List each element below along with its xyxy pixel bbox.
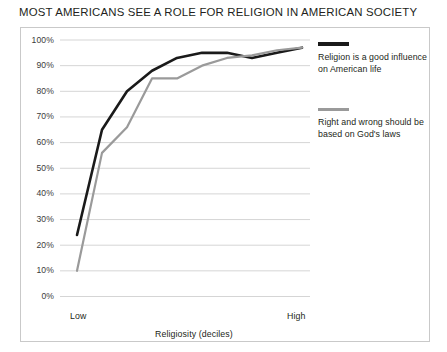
y-axis-tick-label: 0%: [18, 291, 54, 301]
series-line: [77, 48, 302, 235]
y-axis-tick-label: 90%: [18, 60, 54, 70]
legend-entry-religion-good-influence: Religion is a good influence on American…: [318, 42, 434, 75]
y-axis-tick-label: 20%: [18, 240, 54, 250]
gridlines: [60, 40, 310, 297]
y-axis-tick-label: 100%: [18, 35, 54, 45]
y-axis-tick-label: 40%: [18, 188, 54, 198]
legend-entry-right-and-wrong-gods-laws: Right and wrong should be based on God's…: [318, 108, 434, 140]
legend-label-series-b: Right and wrong should be based on God's…: [318, 117, 434, 140]
legend-label-series-a: Religion is a good influence on American…: [318, 52, 434, 75]
y-axis-tick-label: 70%: [18, 111, 54, 121]
y-axis-tick-label: 60%: [18, 137, 54, 147]
series-lines: [77, 48, 302, 271]
legend-swatch-series-a: [318, 42, 349, 46]
x-axis-low-label: Low: [70, 311, 86, 321]
y-axis-tick-label: 30%: [18, 214, 54, 224]
x-axis-title: Religiosity (deciles): [155, 329, 233, 339]
y-axis-tick-label: 50%: [18, 163, 54, 173]
legend-swatch-series-b: [318, 108, 349, 111]
y-axis-tick-label: 10%: [18, 265, 54, 275]
y-axis-tick-label: 80%: [18, 86, 54, 96]
series-line: [77, 48, 302, 271]
x-axis-high-label: High: [287, 311, 306, 321]
